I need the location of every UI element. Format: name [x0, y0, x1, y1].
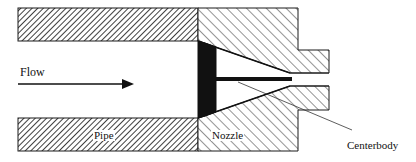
- centerbody-label: Centerbody: [347, 140, 398, 151]
- pipe-label: Pipe: [93, 130, 115, 141]
- nozzle-label: Nozzle: [211, 130, 244, 141]
- flow-label: Flow: [20, 66, 45, 78]
- centerbody-rod: [216, 77, 292, 81]
- centerbody-disc: [198, 41, 216, 118]
- nozzle-centerbody-diagram: [0, 0, 416, 162]
- flow-arrow-head: [122, 79, 134, 89]
- pipe-top-wall: [18, 8, 198, 41]
